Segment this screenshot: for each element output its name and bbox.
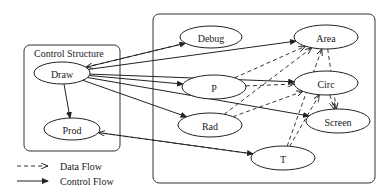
node-draw[interactable]: Draw: [34, 62, 90, 84]
node-area-label: Area: [316, 33, 336, 44]
data-edge-t-to-area: [287, 49, 322, 146]
data-edge-circ-to-screen: [330, 95, 334, 109]
node-t[interactable]: T: [251, 146, 315, 170]
data-edge-p-to-area: [235, 46, 306, 78]
node-p[interactable]: P: [182, 75, 246, 99]
legend-data-flow-label: Data Flow: [60, 161, 103, 172]
control-structure-label: Control Structure: [34, 48, 104, 59]
node-rad[interactable]: Rad: [178, 113, 242, 137]
node-screen-label: Screen: [324, 117, 351, 128]
node-debug[interactable]: Debug: [180, 26, 242, 48]
control-edge-draw-to-prod: [64, 84, 70, 118]
node-prod[interactable]: Prod: [44, 118, 100, 140]
node-p-label: P: [211, 83, 217, 94]
node-rad-label: Rad: [202, 121, 218, 132]
node-circ-label: Circ: [317, 79, 335, 90]
node-draw-label: Draw: [51, 69, 74, 80]
data-edge-p-to-circ: [246, 84, 294, 86]
node-prod-label: Prod: [63, 125, 82, 136]
legend-control-flow-label: Control Flow: [60, 176, 114, 187]
flow-diagram: Control Structure Draw Prod Debug Area P…: [0, 0, 392, 193]
legend: Data Flow Control Flow: [17, 161, 114, 187]
node-debug-label: Debug: [198, 33, 225, 44]
node-screen[interactable]: Screen: [306, 109, 370, 133]
node-area[interactable]: Area: [294, 25, 358, 49]
node-t-label: T: [280, 154, 286, 165]
nodes-layer: Draw Prod Debug Area P Circ Rad Screen: [34, 25, 370, 170]
node-circ[interactable]: Circ: [294, 71, 358, 95]
